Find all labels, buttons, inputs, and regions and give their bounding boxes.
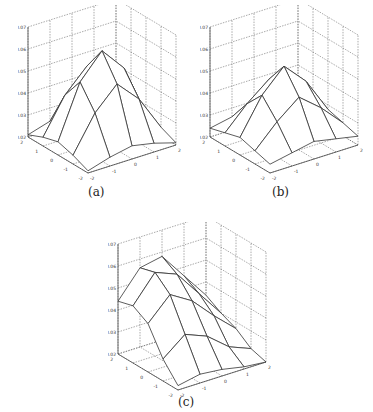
surface-plot-c: 0.020.030.040.050.060.07-2-1012-2-1012	[108, 222, 278, 402]
y-tick-label: 1	[217, 149, 220, 154]
x-tick-label: -1	[294, 169, 299, 174]
x-tick-label: -2	[90, 176, 95, 181]
x-tick-label: 1	[156, 155, 159, 160]
x-tick-label: 0	[224, 379, 227, 384]
z-tick-label: 0.06	[18, 47, 26, 52]
plot-c-surface	[118, 256, 266, 385]
y-tick-label: 2	[110, 357, 113, 362]
surface-plot-a: 0.020.030.040.050.060.07-2-1012-2-1012	[18, 5, 188, 185]
y-tick-label: -2	[79, 176, 84, 181]
y-tick-label: 0	[232, 158, 235, 163]
z-tick-label: 0.03	[108, 330, 116, 335]
x-tick-label: -2	[272, 176, 277, 181]
x-tick-label: 0	[316, 162, 319, 167]
x-tick-label: 1	[246, 372, 249, 377]
z-tick-label: 0.03	[200, 113, 208, 118]
y-tick-label: 2	[202, 140, 205, 145]
x-tick-label: -1	[202, 386, 207, 391]
x-tick-label: 0	[134, 162, 137, 167]
plot-c-canvas: 0.020.030.040.050.060.07-2-1012-2-1012	[108, 222, 278, 402]
z-tick-label: 0.07	[18, 25, 26, 30]
plot-b-canvas: 0.020.030.040.050.060.07-2-1012-2-1012	[200, 5, 370, 185]
y-tick-label: 0	[140, 375, 143, 380]
z-tick-label: 0.06	[108, 264, 116, 269]
plot-a-canvas: 0.020.030.040.050.060.07-2-1012-2-1012	[18, 5, 188, 185]
y-tick-label: -2	[261, 176, 266, 181]
x-tick-label: 1	[338, 155, 341, 160]
z-tick-label: 0.04	[18, 91, 26, 96]
x-tick-label: 2	[178, 148, 181, 153]
z-tick-label: 0.02	[18, 135, 26, 140]
y-tick-label: -1	[64, 167, 69, 172]
z-tick-label: 0.03	[18, 113, 26, 118]
z-tick-label: 0.07	[200, 25, 208, 30]
z-tick-label: 0.06	[200, 47, 208, 52]
caption-b: (b)	[272, 185, 289, 199]
z-tick-label: 0.05	[18, 69, 26, 74]
y-tick-label: 0	[50, 158, 53, 163]
z-tick-label: 0.04	[200, 91, 208, 96]
y-tick-label: -1	[246, 167, 251, 172]
caption-c: (c)	[178, 395, 194, 409]
z-tick-label: 0.02	[108, 352, 116, 357]
y-tick-label: 1	[35, 149, 38, 154]
z-tick-label: 0.07	[108, 242, 116, 247]
y-tick-label: -2	[169, 393, 174, 398]
z-tick-label: 0.02	[200, 135, 208, 140]
y-tick-label: 1	[125, 366, 128, 371]
x-tick-label: 2	[268, 365, 271, 370]
y-tick-label: 2	[20, 140, 23, 145]
caption-a: (a)	[88, 185, 105, 199]
z-tick-label: 0.05	[200, 69, 208, 74]
z-tick-label: 0.04	[108, 308, 116, 313]
surface-plot-b: 0.020.030.040.050.060.07-2-1012-2-1012	[200, 5, 370, 185]
x-tick-label: -1	[112, 169, 117, 174]
y-tick-label: -1	[154, 384, 159, 389]
z-tick-label: 0.05	[108, 286, 116, 291]
x-tick-label: 2	[360, 148, 363, 153]
